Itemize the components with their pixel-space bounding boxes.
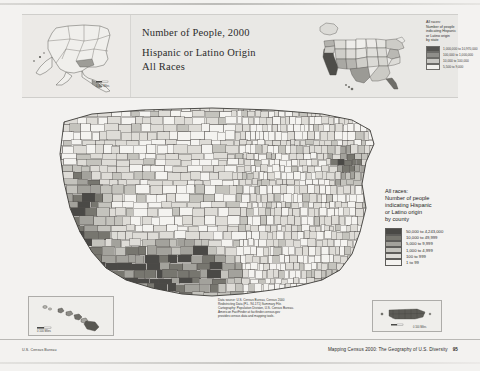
county-polygon [81,124,91,131]
county-polygon [235,256,240,264]
county-polygon [113,185,124,194]
county-legend-title-line-0: All races: [385,188,477,195]
county-legend-label: 1,000 to 4,999 [406,248,433,253]
county-polygon [292,160,298,166]
county-polygon [327,172,335,180]
county-polygon [301,217,308,226]
county-polygon [157,154,166,160]
county-polygon [252,179,257,185]
county-polygon [335,225,341,231]
hawaii-scale-bar: 0 100 Miles [37,327,51,333]
county-polygon [323,124,330,131]
county-polygon [82,140,95,145]
county-polygon [178,132,191,140]
county-polygon [263,125,268,132]
county-polygon [200,173,209,181]
county-legend-label: 10,000 to 49,999 [406,235,437,240]
county-polygon [316,171,322,179]
county-polygon [178,125,189,132]
county-polygon [113,194,123,202]
county-polygon [188,226,198,232]
county-polygon [336,232,343,240]
county-polygon [92,132,99,140]
county-polygon [200,269,207,277]
county-polygon [309,202,314,208]
county-polygon [116,140,127,145]
county-polygon [322,194,326,202]
county-polygon [286,202,291,208]
county-polygon [235,263,242,270]
county-polygon [309,247,316,256]
county-polygon [189,194,204,202]
county-polygon [354,124,360,131]
county-polygon [218,208,228,216]
county-polygon [322,116,330,124]
county-polygon [297,194,302,202]
county-polygon [261,112,268,118]
county-polygon [235,284,242,292]
county-polygon [205,208,218,216]
county-polygon [312,159,318,165]
county-polygon [135,172,144,180]
county-polygon [254,239,259,246]
county-polygon [281,154,289,160]
county-legend-label: 50,000 to 4,243,000 [406,229,443,234]
county-polygon [222,181,233,187]
county-polygon [331,159,339,165]
county-polygon [318,125,323,132]
county-polygon [262,145,268,153]
county-polygon [311,153,317,159]
county-polygon [242,111,248,117]
county-legend-label: 5,000 to 9,999 [406,241,433,246]
county-polygon [191,256,202,264]
county-polygon [235,153,243,159]
source-line-4: provides census data and mapping tools. [218,315,310,319]
county-polygon [218,225,228,231]
county-polygon [126,225,135,231]
county-polygon [290,255,298,263]
county-polygon [298,255,304,263]
county-polygon [286,263,294,270]
county-polygon [327,240,333,247]
county-polygon [95,145,104,153]
county-polygon [126,208,133,216]
county-polygon [248,239,253,246]
county-polygon [117,166,130,173]
county-polygon [151,111,160,117]
county-polygon [343,232,349,240]
county-polygon [78,202,90,208]
county-polygon [180,207,194,215]
county-polygon [335,246,339,255]
county-polygon [350,171,355,179]
county-polygon [148,180,162,186]
county-polygon [239,202,247,208]
county-polygon [334,255,341,263]
county-polygon [279,271,284,279]
county-polygon [181,173,191,181]
county-polygon [148,202,162,208]
county-legend-label: 100 to 999 [406,254,426,259]
county-polygon [267,166,273,173]
county-polygon [253,216,260,225]
county-polygon [191,160,200,166]
county-polygon [244,160,250,166]
county-polygon [133,208,147,216]
county-polygon [150,117,162,125]
county-polygon [223,194,235,202]
county-polygon [251,131,256,139]
county-polygon [241,208,247,216]
county-polygon [176,193,190,201]
county-polygon [322,239,327,246]
county-polygon [337,186,343,195]
county-polygon [178,255,192,263]
county-polygon [332,216,339,225]
county-polygon [98,202,111,208]
county-polygon [315,270,321,278]
alaska-scale-label: 0 300 Miles [96,84,110,88]
county-polygon [266,239,273,246]
county-polygon [321,146,327,154]
county-polygon [191,172,201,180]
county-polygon [156,159,167,165]
puerto-rico-scale-label: 0 100 Miles [413,325,427,329]
county-polygon [168,173,182,181]
